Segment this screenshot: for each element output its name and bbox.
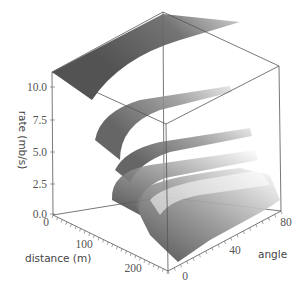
- x-axis: 0 100 200 distance (m): [25, 216, 142, 274]
- y-axis-label: angle: [258, 248, 287, 260]
- z-axis: 10.0 7.5 5.0 2.5 0.0 rate (mb/s): [17, 81, 55, 220]
- y-tick-label: 0: [182, 270, 188, 282]
- x-tick-label: 100: [75, 238, 93, 250]
- z-tick-label: 2.5: [33, 178, 48, 190]
- x-tick-label: 0: [43, 216, 49, 228]
- y-tick-label: 40: [229, 244, 241, 256]
- surface-plot-3d: 10.0 7.5 5.0 2.5 0.0 rate (mb/s) 0 100 2…: [0, 0, 301, 289]
- z-tick-label: 10.0: [27, 81, 47, 93]
- x-tick-label: 200: [124, 262, 142, 274]
- z-tick-label: 5.0: [33, 146, 48, 158]
- z-axis-label: rate (mb/s): [17, 111, 29, 170]
- x-axis-label: distance (m): [25, 252, 91, 264]
- z-tick-label: 7.5: [33, 114, 48, 126]
- y-tick-label: 80: [280, 216, 292, 228]
